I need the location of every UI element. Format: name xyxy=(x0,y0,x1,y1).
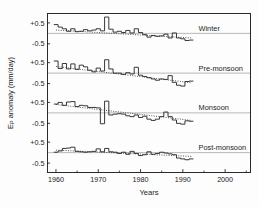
ytick-label: -0.5 xyxy=(32,159,44,168)
ytick-label: -0.5 xyxy=(32,79,44,88)
panel-label-pre-monsoon: Pre-monsoon xyxy=(199,64,243,73)
xtick-label: 1960 xyxy=(48,175,64,184)
xtick-label: 2000 xyxy=(217,175,233,184)
yaxis-title: EP anomaly (mm/day) xyxy=(6,57,16,129)
xtick-label: 1970 xyxy=(90,175,106,184)
ytick-label: -0.5 xyxy=(32,39,44,48)
panel-label-post-monsoon: Post-monsoon xyxy=(199,143,247,152)
ytick-label: +0.5 xyxy=(30,58,44,67)
xtick-label: 1980 xyxy=(133,175,149,184)
figure-container: +0.5-0.5+0.5-0.5+0.5-0.5+0.5-0.519601970… xyxy=(0,0,259,207)
ytick-label: +0.5 xyxy=(30,98,44,107)
xaxis-title: Years xyxy=(139,188,158,197)
ytick-label: -0.5 xyxy=(32,119,44,128)
ytick-label: +0.5 xyxy=(30,19,44,28)
anomaly-chart: +0.5-0.5+0.5-0.5+0.5-0.5+0.5-0.519601970… xyxy=(0,0,259,207)
ytick-label: +0.5 xyxy=(30,138,44,147)
xtick-label: 1990 xyxy=(175,175,191,184)
svg-text:EP anomaly (mm/day): EP anomaly (mm/day) xyxy=(6,57,16,129)
panel-label-monsoon: Monsoon xyxy=(199,103,229,112)
panel-label-winter: Winter xyxy=(199,24,221,33)
